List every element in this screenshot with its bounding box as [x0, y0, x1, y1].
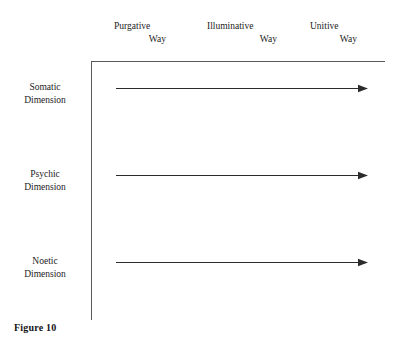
horizontal-axis-line	[91, 61, 385, 62]
row-label-line-1: Somatic	[8, 81, 82, 94]
column-header-unitive-way: Unitive Way	[310, 20, 357, 45]
column-header-line-1: Purgative	[114, 20, 166, 33]
row-label-line-2: Dimension	[8, 268, 82, 281]
column-header-line-1: Illuminative	[207, 20, 277, 33]
column-header-illuminative-way: Illuminative Way	[207, 20, 277, 45]
row-label-noetic-dimension: Noetic Dimension	[8, 255, 82, 280]
row-label-psychic-dimension: Psychic Dimension	[8, 168, 82, 193]
row-label-line-2: Dimension	[8, 94, 82, 107]
figure-caption: Figure 10	[14, 322, 56, 333]
column-header-line-2: Way	[310, 33, 357, 46]
vertical-axis-line	[91, 61, 92, 320]
column-header-line-1: Unitive	[310, 20, 357, 33]
progression-arrow-noetic	[116, 258, 368, 267]
row-label-somatic-dimension: Somatic Dimension	[8, 81, 82, 106]
figure-diagram: Purgative Way Illuminative Way Unitive W…	[0, 0, 401, 352]
row-label-line-2: Dimension	[8, 181, 82, 194]
row-label-line-1: Psychic	[8, 168, 82, 181]
column-header-purgative-way: Purgative Way	[114, 20, 166, 45]
column-header-line-2: Way	[114, 33, 166, 46]
row-label-line-1: Noetic	[8, 255, 82, 268]
column-header-line-2: Way	[207, 33, 277, 46]
progression-arrow-somatic	[116, 84, 368, 93]
progression-arrow-psychic	[116, 171, 368, 180]
